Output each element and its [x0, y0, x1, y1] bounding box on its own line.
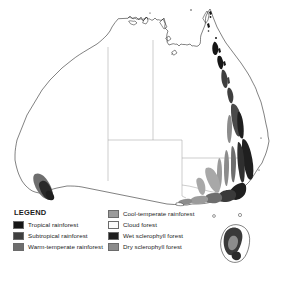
legend-item-dry-sclerophyll-forest: Dry sclerophyll forest — [108, 242, 220, 252]
legend-swatch-tropical-rainforest — [13, 221, 24, 229]
legend-swatch-cloud-forest — [108, 221, 119, 229]
legend-item-subtropical-rainforest: Subtropical rainforest — [13, 231, 108, 241]
legend-item-warm-temperate-rainforest: Warm-temperate rainforest — [13, 242, 108, 252]
legend-column-right: Cool-temperate rainforest Cloud forest W… — [108, 209, 220, 253]
flinders-island — [238, 213, 241, 216]
legend-item-cool-temperate-rainforest: Cool-temperate rainforest — [108, 209, 220, 219]
legend-swatch-warm-temperate-rainforest — [13, 243, 24, 251]
mainland-australia — [15, 9, 269, 205]
legend-label-cloud-forest: Cloud forest — [123, 221, 157, 229]
legend-columns: Tropical rainforest Subtropical rainfore… — [13, 220, 223, 253]
mainland-coastline — [15, 9, 269, 205]
legend-swatch-subtropical-rainforest — [13, 232, 24, 240]
legend-label-subtropical-rainforest: Subtropical rainforest — [28, 232, 88, 240]
legend-swatch-dry-sclerophyll-forest — [108, 243, 119, 251]
legend: LEGEND Tropical rainforest Subtropical r… — [13, 208, 223, 253]
legend-item-cloud-forest: Cloud forest — [108, 220, 220, 230]
legend-label-warm-temperate-rainforest: Warm-temperate rainforest — [28, 243, 103, 251]
legend-column-left: Tropical rainforest Subtropical rainfore… — [13, 220, 108, 253]
forest-distribution-map-figure: LEGEND Tropical rainforest Subtropical r… — [0, 0, 293, 287]
legend-swatch-cool-temperate-rainforest — [108, 210, 119, 218]
legend-swatch-wet-sclerophyll-forest — [108, 232, 119, 240]
legend-label-tropical-rainforest: Tropical rainforest — [28, 221, 78, 229]
legend-item-tropical-rainforest: Tropical rainforest — [13, 220, 108, 230]
legend-label-wet-sclerophyll-forest: Wet sclerophyll forest — [123, 232, 183, 240]
legend-label-cool-temperate-rainforest: Cool-temperate rainforest — [123, 210, 194, 218]
legend-item-wet-sclerophyll-forest: Wet sclerophyll forest — [108, 231, 220, 241]
legend-label-dry-sclerophyll-forest: Dry sclerophyll forest — [123, 243, 182, 251]
